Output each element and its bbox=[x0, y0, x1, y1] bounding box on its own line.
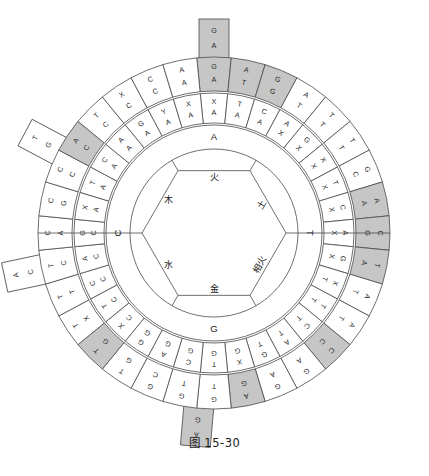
ring-cell-label: T bbox=[211, 360, 216, 369]
base-ring-label: A bbox=[211, 131, 218, 142]
five-element-label: 金 bbox=[210, 283, 219, 294]
ring-cell-label: G bbox=[211, 349, 217, 358]
figure-caption: 图 15-30 bbox=[0, 434, 429, 450]
hexagon-outline bbox=[142, 171, 286, 296]
ring-cell-label: T bbox=[211, 382, 216, 391]
hexagon-spoke bbox=[250, 160, 256, 170]
ring-cell-label: G bbox=[211, 395, 217, 404]
hexagon-spoke bbox=[172, 295, 178, 305]
five-element-label: 水 bbox=[164, 259, 173, 270]
ring-cell-label: X bbox=[212, 97, 217, 106]
five-element-label: 火 bbox=[210, 172, 219, 182]
five-element-label: 木 bbox=[164, 194, 173, 205]
base-ring-label: G bbox=[210, 323, 217, 334]
ring-cell-label: G bbox=[211, 62, 217, 71]
figure-root: GAACTGAG GAATGGATTTTTGCAACGTAATATCCGAGAA… bbox=[0, 0, 429, 476]
tab-label: A bbox=[212, 41, 217, 50]
radial-wheel-diagram: GAACTGAG GAATGGATTTTTGCAACGTAATATCCGAGAA… bbox=[0, 0, 429, 476]
tab-label: G bbox=[211, 26, 217, 35]
tab-top: GA bbox=[199, 19, 229, 59]
base-ring-label: C bbox=[112, 229, 123, 236]
ring-cell-label: A bbox=[212, 108, 217, 117]
base-ring-label: T bbox=[305, 230, 316, 236]
five-elements-hexagon: 火土相火金水木 bbox=[130, 160, 298, 305]
hexagon-spoke bbox=[172, 160, 178, 170]
ring-cell-label: A bbox=[212, 75, 217, 84]
hexagon-spoke bbox=[250, 295, 256, 305]
